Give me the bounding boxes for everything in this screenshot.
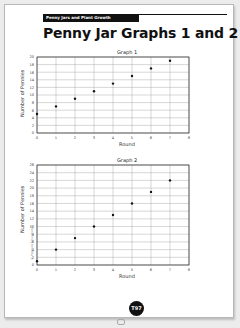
svg-text:5: 5: [131, 268, 133, 272]
graph-1-xlabel: Round: [119, 141, 135, 147]
copyright-notice: © Pearson Education 4: [30, 225, 34, 260]
graph-1-plot: 02468101214161820012345678: [23, 53, 193, 143]
svg-text:10: 10: [29, 93, 34, 97]
svg-text:1: 1: [55, 268, 57, 272]
svg-text:20: 20: [29, 186, 34, 190]
svg-text:8: 8: [188, 268, 191, 272]
svg-text:0: 0: [32, 263, 35, 267]
graph-2-plot: 02468101214161820222426012345678: [23, 161, 193, 275]
svg-text:5: 5: [131, 136, 133, 140]
svg-text:4: 4: [32, 116, 35, 120]
svg-text:16: 16: [29, 71, 34, 75]
svg-text:4: 4: [112, 136, 115, 140]
svg-text:20: 20: [29, 55, 34, 59]
svg-text:2: 2: [32, 124, 34, 128]
page-fold-mark: [117, 319, 125, 325]
svg-text:18: 18: [29, 63, 34, 67]
svg-text:8: 8: [188, 136, 191, 140]
svg-text:4: 4: [112, 268, 115, 272]
page-title: Penny Jar Graphs 1 and 2: [43, 25, 238, 41]
worksheet-page: Penny Jars and Plant Growth Penny Jar Gr…: [4, 4, 234, 318]
svg-text:6: 6: [150, 136, 153, 140]
header-rule: [139, 14, 227, 15]
svg-text:16: 16: [29, 202, 34, 206]
svg-text:24: 24: [29, 171, 34, 175]
svg-text:0: 0: [32, 131, 35, 135]
svg-text:3: 3: [93, 268, 95, 272]
svg-text:2: 2: [74, 268, 76, 272]
section-label: Penny Jars and Plant Growth: [43, 14, 139, 22]
svg-text:7: 7: [169, 136, 171, 140]
svg-text:12: 12: [29, 86, 34, 90]
svg-text:22: 22: [29, 179, 34, 183]
svg-text:14: 14: [29, 78, 34, 82]
svg-text:7: 7: [169, 268, 171, 272]
svg-text:12: 12: [29, 217, 34, 221]
svg-text:26: 26: [29, 163, 34, 167]
svg-text:6: 6: [150, 268, 153, 272]
svg-text:1: 1: [55, 136, 57, 140]
graph-2-xlabel: Round: [119, 273, 135, 279]
svg-text:2: 2: [74, 136, 76, 140]
svg-text:0: 0: [36, 268, 39, 272]
svg-text:8: 8: [32, 101, 35, 105]
svg-text:3: 3: [93, 136, 95, 140]
svg-text:0: 0: [36, 136, 39, 140]
svg-text:14: 14: [29, 209, 34, 213]
page-number-badge: T97: [129, 301, 144, 316]
svg-text:18: 18: [29, 194, 34, 198]
svg-text:6: 6: [32, 109, 35, 113]
